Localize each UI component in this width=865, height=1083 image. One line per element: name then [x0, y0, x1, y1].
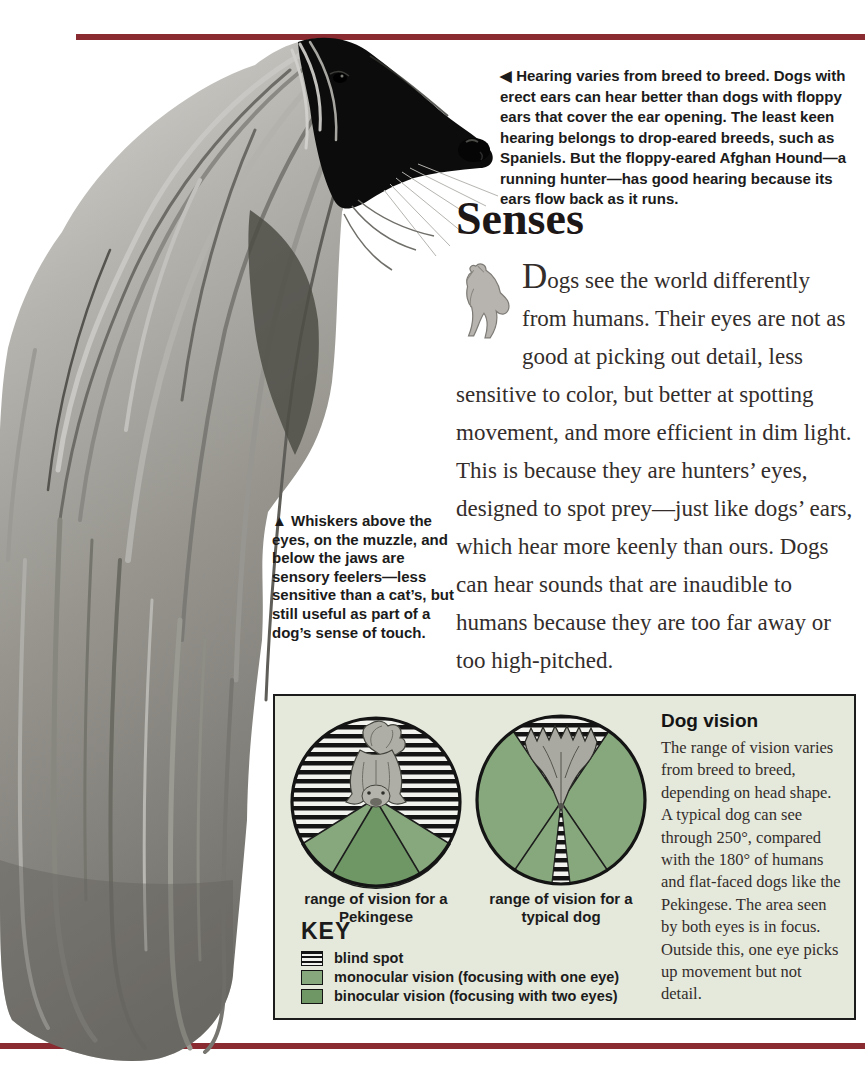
key-label: binocular vision (focusing with two eyes…: [334, 988, 618, 1004]
typical-dog-diagram-caption: range of vision for a typical dog: [456, 890, 666, 926]
book-page: ◀ Hearing varies from breed to breed. Do…: [0, 0, 865, 1083]
dog-head: [298, 38, 493, 209]
dog-vision-panel: range of vision for a Pekingese range of…: [273, 694, 856, 1020]
hearing-caption: ◀ Hearing varies from breed to breed. Do…: [500, 66, 860, 210]
pekingese-vision-diagram: [288, 714, 464, 890]
typical-dog-vision-diagram: [473, 712, 649, 888]
key-item-binocular: binocular vision (focusing with two eyes…: [301, 988, 618, 1004]
eye: [333, 73, 347, 83]
body-paragraph-text: ogs see the world differently from human…: [456, 268, 852, 673]
left-arrow-marker-icon: ◀: [500, 67, 512, 84]
nose: [458, 138, 490, 162]
up-arrow-marker-icon: ▲: [272, 512, 287, 529]
key-item-monocular: monocular vision (focusing with one eye): [301, 969, 619, 985]
key-label: blind spot: [334, 950, 403, 966]
body-paragraph: Dogs see the world differently from huma…: [456, 258, 860, 680]
sidebar-title: Dog vision: [661, 710, 841, 732]
binocular-swatch: [301, 989, 323, 1004]
pekingese-caption-line1: range of vision for a: [271, 890, 481, 908]
monocular-swatch: [301, 970, 323, 985]
typical-caption-line2: typical dog: [456, 908, 666, 926]
key-title: KEY: [301, 918, 351, 945]
sidebar-text: The range of vision varies from breed to…: [661, 737, 841, 1006]
drop-cap: D: [522, 257, 547, 296]
whiskers-caption-text: Whiskers above the eyes, on the muzzle, …: [272, 512, 454, 641]
key-label: monocular vision (focusing with one eye): [334, 969, 619, 985]
key-item-blind-spot: blind spot: [301, 950, 403, 966]
sketch-dog-icon: [456, 262, 514, 344]
page-title: Senses: [456, 192, 584, 245]
dog-vision-sidebar: Dog vision The range of vision varies fr…: [661, 710, 841, 1006]
typical-caption-line1: range of vision for a: [456, 890, 666, 908]
blind-spot-swatch: [301, 951, 323, 966]
whiskers-caption: ▲ Whiskers above the eyes, on the muzzle…: [272, 512, 464, 642]
hearing-caption-text: Hearing varies from breed to breed. Dogs…: [500, 67, 846, 207]
